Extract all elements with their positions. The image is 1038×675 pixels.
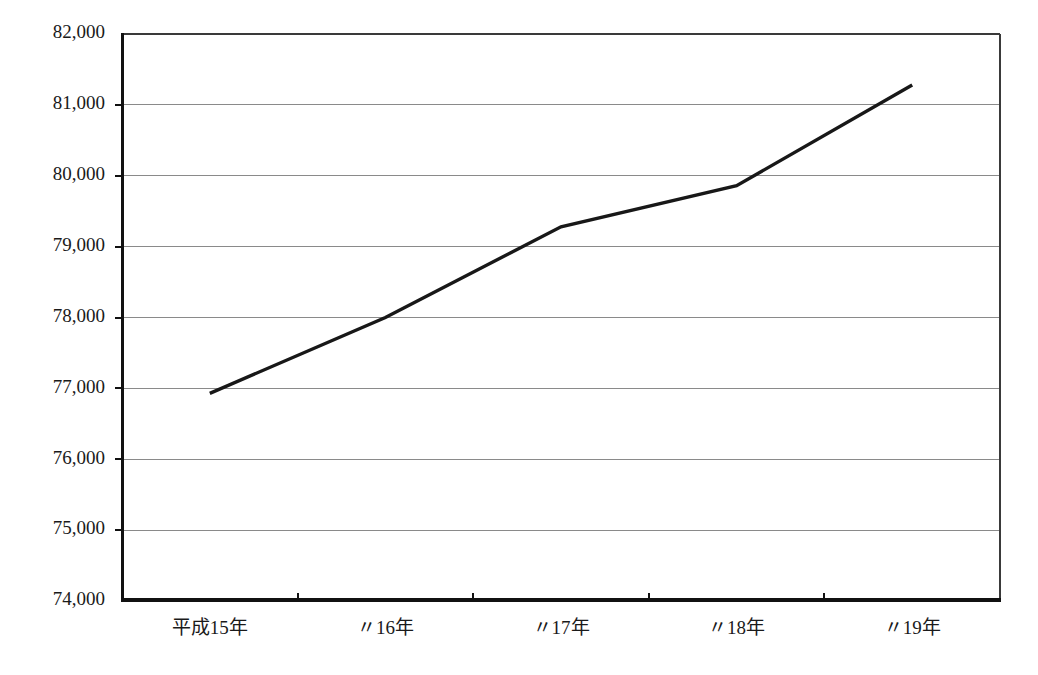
y-tick-labels-group: 74,00075,00076,00077,00078,00079,00080,0… [53, 21, 105, 609]
x-tick-label-4: 〃19年 [884, 617, 941, 638]
line-chart: 74,00075,00076,00077,00078,00079,00080,0… [0, 0, 1038, 675]
y-tick-label-82000: 82,000 [53, 21, 105, 42]
x-tick-label-3: 〃18年 [708, 617, 765, 638]
y-tick-label-79000: 79,000 [53, 234, 105, 255]
chart-canvas: 74,00075,00076,00077,00078,00079,00080,0… [0, 0, 1038, 675]
x-tick-label-2: 〃17年 [533, 617, 590, 638]
y-tick-label-78000: 78,000 [53, 305, 105, 326]
y-tick-label-80000: 80,000 [53, 163, 105, 184]
x-tick-label-1: 〃16年 [357, 617, 414, 638]
y-tick-label-81000: 81,000 [53, 92, 105, 113]
y-tick-label-77000: 77,000 [53, 376, 105, 397]
y-tick-label-74000: 74,000 [53, 588, 105, 609]
y-tick-label-75000: 75,000 [53, 517, 105, 538]
y-tick-label-76000: 76,000 [53, 447, 105, 468]
x-tick-label-0: 平成15年 [172, 617, 248, 638]
